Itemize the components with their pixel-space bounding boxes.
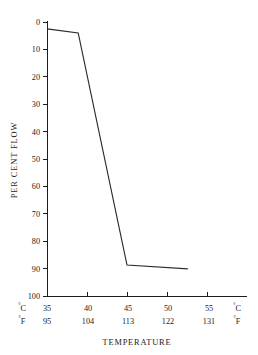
y-tick-label-100: 100 xyxy=(28,292,40,301)
y-tick-marks xyxy=(43,22,48,296)
y-tick-label-80: 80 xyxy=(32,237,40,246)
unit-label-fahrenheit-right: °F xyxy=(234,315,241,326)
x-tick-label-c-45: 45 xyxy=(124,304,132,313)
x-tick-label-c-40: 40 xyxy=(84,304,92,313)
y-tick-label-60: 60 xyxy=(32,182,40,191)
x-tick-label-c-50: 50 xyxy=(164,304,172,313)
x-celsius-row: 35 40 45 50 55 xyxy=(43,304,213,313)
y-tick-label-70: 70 xyxy=(32,210,40,219)
y-tick-labels: 0 10 20 30 40 50 60 70 80 90 100 xyxy=(28,18,40,301)
x-tick-label-f-95: 95 xyxy=(43,317,51,326)
y-axis-title: PER CENT FLOW xyxy=(10,122,19,199)
x-tick-label-f-131: 131 xyxy=(203,317,215,326)
x-tick-label-c-55: 55 xyxy=(205,304,213,313)
x-axis-title: TEMPERATURE xyxy=(103,338,172,347)
y-tick-label-40: 40 xyxy=(32,128,40,137)
y-tick-label-90: 90 xyxy=(32,265,40,274)
x-axis-group: 35 40 45 50 55 95 104 113 122 131 °C xyxy=(18,292,247,348)
x-axis-units-left: °C °F xyxy=(18,302,26,326)
y-axis-group: 0 10 20 30 40 50 60 70 80 90 100 PER CEN… xyxy=(10,18,48,301)
x-fahrenheit-row: 95 104 113 122 131 xyxy=(43,317,215,326)
chart-figure: 0 10 20 30 40 50 60 70 80 90 100 PER CEN… xyxy=(0,0,258,355)
x-tick-label-f-122: 122 xyxy=(162,317,174,326)
y-tick-label-30: 30 xyxy=(32,100,40,109)
x-axis-units-right: °C °F xyxy=(233,302,241,326)
unit-label-celsius-left: °C xyxy=(18,302,26,313)
y-tick-label-10: 10 xyxy=(32,45,40,54)
unit-label-celsius-right: °C xyxy=(233,302,241,313)
chart-svg: 0 10 20 30 40 50 60 70 80 90 100 PER CEN… xyxy=(0,0,258,355)
unit-label-fahrenheit-left: °F xyxy=(19,315,26,326)
y-tick-label-20: 20 xyxy=(32,73,40,82)
data-line-per-cent-flow xyxy=(47,29,188,269)
x-tick-label-c-35: 35 xyxy=(43,304,51,313)
y-tick-label-50: 50 xyxy=(32,155,40,164)
x-tick-label-f-113: 113 xyxy=(122,317,134,326)
x-tick-label-f-104: 104 xyxy=(82,317,94,326)
y-tick-label-0: 0 xyxy=(36,18,40,27)
data-series-group xyxy=(47,29,188,269)
x-tick-marks xyxy=(48,292,208,297)
